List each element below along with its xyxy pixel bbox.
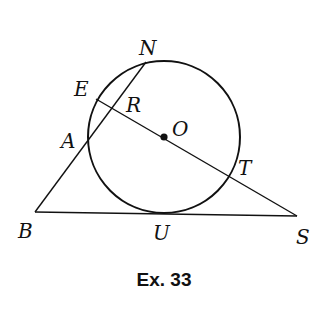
label-R: R bbox=[125, 93, 141, 117]
label-T: T bbox=[238, 156, 253, 180]
label-N: N bbox=[138, 36, 158, 60]
label-B: B bbox=[17, 219, 33, 243]
label-O: O bbox=[172, 117, 188, 141]
label-S: S bbox=[296, 225, 310, 249]
caption: Ex. 33 bbox=[137, 269, 192, 290]
geometry-figure: N E R O A T B U S Ex. 33 bbox=[0, 0, 329, 312]
label-U: U bbox=[153, 221, 171, 245]
segment-NB bbox=[35, 62, 146, 212]
center-dot-O bbox=[160, 133, 167, 140]
label-A: A bbox=[59, 129, 75, 153]
label-E: E bbox=[73, 77, 89, 101]
